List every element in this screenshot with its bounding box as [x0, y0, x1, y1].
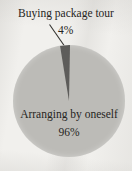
pie-chart-figure: Buying package tour 4% Arranging by ones…	[0, 0, 132, 171]
pie-slice-value-buying-package-tour: 4%	[58, 25, 92, 37]
pie-slice-value-arranging-by-oneself: 96%	[13, 127, 125, 139]
pie-slice-label-buying-package-tour: Buying package tour	[0, 8, 132, 20]
pie-slice-label-arranging-by-oneself: Arranging by oneself	[13, 109, 125, 121]
pie-graphic: Arranging by oneself 96%	[13, 45, 125, 157]
